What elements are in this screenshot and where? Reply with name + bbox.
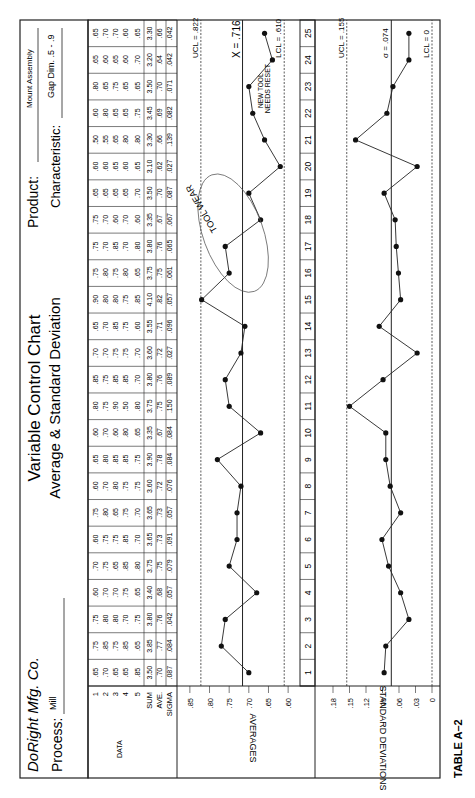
sigma-cell: .082	[166, 106, 173, 120]
table-column: .70.70.75.75.703.60.72.027	[92, 346, 173, 360]
ave-cell: .68	[156, 588, 163, 598]
sum-cell: 3.80	[146, 240, 153, 254]
control-chart: DoRight Mfg. Co. Process: Mill Variable …	[0, 0, 475, 798]
table-cell: .80	[122, 268, 129, 278]
table-cell: .70	[102, 321, 109, 331]
data-point	[262, 137, 267, 142]
data-point	[398, 510, 403, 515]
sigma-cell: .087	[166, 186, 173, 200]
table-cell: .80	[122, 428, 129, 438]
table-cell: .80	[102, 455, 109, 465]
y-tick-label: .15	[346, 698, 355, 708]
characteristic-value: Gap Dim. .5 - .9	[46, 34, 56, 98]
table-cell: .65	[92, 455, 99, 465]
table-cell: .75	[112, 82, 119, 92]
table-cell: .75	[102, 561, 109, 571]
table-cell: .70	[122, 614, 129, 624]
table-cell: .60	[92, 535, 99, 545]
table-cell: .65	[134, 641, 141, 651]
table-cell: .75	[134, 614, 141, 624]
table-cell: .65	[112, 162, 119, 172]
sample-number: 4	[303, 590, 313, 595]
sample-number: 10	[303, 428, 313, 438]
sum-cell: 3.55	[146, 319, 153, 333]
table-cell: .75	[122, 295, 129, 305]
ave-cell: .75	[156, 561, 163, 571]
ave-cell: .66	[156, 135, 163, 145]
row-label: 1	[91, 692, 100, 696]
data-point	[398, 297, 403, 302]
table-cell: .75	[122, 348, 129, 358]
table-caption: TABLE A–2	[452, 719, 464, 778]
sigma-cell: .067	[166, 213, 173, 227]
table-cell: .60	[92, 428, 99, 438]
sum-cell: 3.40	[146, 586, 153, 600]
sigma-cell: .042	[166, 26, 173, 40]
table-cell: .75	[122, 481, 129, 491]
table-cell: .85	[122, 375, 129, 385]
table-column: .85.75.85.85.703.80.76.089	[92, 373, 173, 387]
table-cell: .65	[134, 268, 141, 278]
table-cell: .75	[92, 508, 99, 518]
table-cell: .50	[122, 401, 129, 411]
row-label: SUM	[145, 692, 154, 709]
sum-cell: 3.50	[146, 80, 153, 94]
sample-number: 18	[303, 215, 313, 225]
sample-number: 9	[303, 457, 313, 462]
table-cell: .65	[134, 82, 141, 92]
table-cell: .75	[102, 375, 109, 385]
sum-cell: 3.30	[146, 133, 153, 147]
sigma-cell: .027	[166, 346, 173, 360]
ucl-label: UCL = .155	[337, 17, 346, 58]
data-point	[219, 643, 224, 648]
table-cell: .65	[92, 321, 99, 331]
row-label: AVE.	[155, 692, 164, 709]
table-cell: .70	[112, 588, 119, 598]
sample-number: 22	[303, 108, 313, 118]
table-cell: .75	[134, 108, 141, 118]
sigma-cell: .065	[166, 240, 173, 254]
sample-number: 2	[303, 643, 313, 648]
sigma-cell: .084	[166, 639, 173, 653]
data-point	[393, 217, 398, 222]
table-cell: .80	[102, 295, 109, 305]
table-column: .80.65.75.65.653.50.70.071	[92, 80, 173, 94]
table-cell: .75	[92, 268, 99, 278]
sigma-cell: .087	[166, 666, 173, 680]
sample-number: 11	[303, 402, 313, 411]
table-cell: .75	[112, 535, 119, 545]
sigma-cell: .150	[166, 399, 173, 413]
table-cell: .55	[102, 135, 109, 145]
tool-wear-annotation: TOOL WEAR	[183, 183, 219, 235]
table-cell: .90	[112, 401, 119, 411]
ave-cell: .75	[156, 268, 163, 278]
ave-cell: .73	[156, 535, 163, 545]
sigma-cell: .096	[166, 319, 173, 333]
sample-number: 13	[303, 348, 313, 358]
y-tick-label: .85	[186, 698, 195, 708]
data-point	[377, 324, 382, 329]
table-cell: .75	[134, 481, 141, 491]
data-point	[382, 670, 387, 675]
table-cell: .65	[92, 55, 99, 65]
table-cell: .65	[134, 162, 141, 172]
table-cell: .75	[92, 641, 99, 651]
table-cell: .65	[102, 188, 109, 198]
table-cell: .85	[112, 241, 119, 251]
data-point	[406, 617, 411, 622]
table-column: .60.70.70.75.653.40.68.057	[92, 586, 173, 600]
sigma-cell: .042	[166, 612, 173, 626]
ave-cell: .67	[156, 428, 163, 438]
sample-number: 24	[303, 55, 313, 65]
table-cell: .75	[92, 241, 99, 251]
row-label: 2	[101, 692, 110, 696]
sum-cell: 3.80	[146, 373, 153, 387]
sample-number: 21	[303, 135, 313, 145]
table-cell: .65	[122, 668, 129, 678]
ave-cell: .78	[156, 455, 163, 465]
data-table: .65.70.65.65.853.50.70.087.75.85.75.85.6…	[88, 20, 315, 686]
table-cell: .60	[92, 588, 99, 598]
lcl-label: LCL = .610	[274, 18, 283, 58]
table-cell: .75	[122, 508, 129, 518]
sum-cell: 3.80	[146, 612, 153, 626]
